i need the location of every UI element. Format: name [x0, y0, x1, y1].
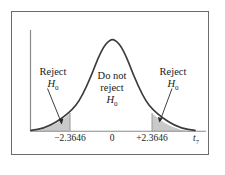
- do-not-reject-label: Do not reject H0: [84, 70, 140, 108]
- do-not-reject-symbol: H0: [84, 94, 140, 109]
- null-hypothesis-subscript-left: 0: [55, 84, 59, 92]
- reject-label-right-text: Reject: [150, 66, 196, 78]
- null-hypothesis-subscript-right: 0: [175, 84, 179, 92]
- x-axis-label-subscript: 7: [196, 138, 199, 145]
- arrow-left-line: [48, 89, 62, 124]
- do-not-reject-line2: reject: [84, 82, 140, 94]
- null-hypothesis-subscript-center: 0: [114, 100, 118, 108]
- tick-label-negative-critical: −2.3646: [46, 133, 94, 144]
- null-hypothesis-symbol-left: H: [47, 78, 55, 89]
- reject-label-left-symbol: H0: [30, 78, 76, 93]
- rejection-region-right-shade: [152, 114, 196, 132]
- reject-label-right: Reject H0: [150, 66, 196, 93]
- null-hypothesis-symbol-center: H: [106, 94, 114, 105]
- arrow-right-line: [160, 89, 172, 122]
- reject-label-left-text: Reject: [30, 66, 76, 78]
- tick-label-zero: 0: [101, 133, 123, 144]
- tick-label-positive-critical: +2.3646: [128, 133, 176, 144]
- x-axis-label: t7: [193, 133, 199, 145]
- reject-label-right-symbol: H0: [150, 78, 196, 93]
- t-distribution-figure: Reject H0 Do not reject H0 Reject H0 −2.…: [0, 0, 225, 175]
- do-not-reject-line1: Do not: [84, 70, 140, 82]
- null-hypothesis-symbol-right: H: [167, 78, 175, 89]
- reject-label-left: Reject H0: [30, 66, 76, 93]
